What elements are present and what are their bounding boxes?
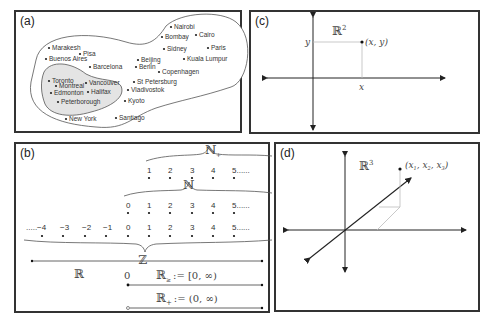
- svg-text:5......: 5......: [232, 166, 250, 175]
- n-row: 0 1 2 3 4 5......: [126, 201, 250, 214]
- svg-text:St Petersburg: St Petersburg: [137, 78, 177, 86]
- svg-text:3: 3: [190, 166, 195, 175]
- svg-text:Nairobi: Nairobi: [174, 23, 195, 30]
- svg-text:New York: New York: [69, 115, 97, 122]
- svg-text:3: 3: [190, 201, 195, 210]
- r-pos-label: ℝ+:= (0, ∞): [156, 291, 218, 307]
- svg-text:Kyoto: Kyoto: [128, 97, 145, 105]
- svg-text:Berlin: Berlin: [139, 63, 156, 70]
- panel-d-r3-space: (d) ℝ3 (x1, x2, x3): [274, 142, 480, 312]
- svg-text:Peterborough: Peterborough: [61, 98, 101, 106]
- y-tick-label: y: [304, 37, 311, 47]
- svg-text:Montreal: Montreal: [59, 82, 85, 89]
- svg-text:Vancouver: Vancouver: [89, 79, 120, 86]
- zero-label: 0: [124, 270, 130, 281]
- svg-text:Halifax: Halifax: [91, 88, 112, 95]
- panel-b-number-sets: (b) ℕ+ 1 2 3 4 5...... ℕ 0 1 2 3 4 5....…: [14, 142, 270, 313]
- r2-plane-diagram: ℝ2 (x, y) y x: [251, 12, 482, 136]
- svg-text:Sidney: Sidney: [167, 45, 188, 53]
- nplus-label: ℕ+: [205, 143, 221, 158]
- space-label-r2: ℝ2: [332, 24, 346, 38]
- svg-text:4: 4: [211, 223, 216, 232]
- svg-text:5......: 5......: [232, 223, 250, 232]
- point-xy: [360, 40, 363, 43]
- svg-text:Bombay: Bombay: [165, 33, 190, 41]
- svg-text:Buenos Aires: Buenos Aires: [49, 55, 88, 62]
- svg-text:Vladivostok: Vladivostok: [131, 86, 165, 93]
- number-sets-diagram: ℕ+ 1 2 3 4 5...... ℕ 0 1 2 3 4 5......: [16, 144, 272, 315]
- point-label: (x, y): [365, 37, 388, 47]
- svg-text:−3: −3: [60, 223, 70, 232]
- space-label-r3: ℝ3: [359, 159, 373, 173]
- svg-text:Santiago: Santiago: [119, 114, 145, 122]
- r-label: ℝ: [74, 267, 85, 281]
- x-tick-label: x: [359, 82, 364, 92]
- svg-text:Marakesh: Marakesh: [52, 44, 81, 51]
- svg-text:Paris: Paris: [211, 44, 227, 51]
- svg-text:1: 1: [147, 166, 152, 175]
- svg-text:.....−4: .....−4: [26, 223, 47, 232]
- svg-text:1: 1: [147, 223, 152, 232]
- n-label: ℕ: [183, 178, 194, 192]
- x2-axis: [310, 178, 411, 258]
- svg-text:4: 4: [211, 201, 216, 210]
- z-label: ℤ: [138, 253, 147, 267]
- n-brace: [124, 182, 272, 196]
- svg-text:0: 0: [126, 201, 131, 210]
- svg-text:−2: −2: [82, 223, 92, 232]
- svg-text:4: 4: [211, 166, 216, 175]
- svg-text:3: 3: [190, 223, 195, 232]
- svg-text:Kuala Lumpur: Kuala Lumpur: [187, 55, 228, 63]
- svg-text:Barcelona: Barcelona: [93, 63, 123, 70]
- panel-a-city-sets: (a) Nairobi Bombay Cairo Sidney Paris Ma…: [14, 10, 242, 133]
- svg-text:2: 2: [168, 223, 173, 232]
- nplus-row: 1 2 3 4 5......: [147, 166, 250, 179]
- panel-c-r2-plane: (c) ℝ2 (x, y) y x: [249, 10, 480, 134]
- z-brace: [24, 240, 272, 252]
- svg-text:5......: 5......: [232, 201, 250, 210]
- svg-text:−1: −1: [103, 223, 113, 232]
- point-x1x2x3: [398, 167, 401, 170]
- city-sets-diagram: Nairobi Bombay Cairo Sidney Paris Marake…: [16, 12, 244, 135]
- svg-text:Edmonton: Edmonton: [54, 89, 84, 96]
- svg-text:Copenhagen: Copenhagen: [162, 68, 200, 76]
- svg-text:2: 2: [168, 166, 173, 175]
- r-nonneg-label: ℝ≥:= [0, ∞): [156, 268, 217, 283]
- z-row: .....−4 −3 −2 −1 0 1 2 3 4 5......: [26, 223, 250, 237]
- r3-space-diagram: ℝ3 (x1, x2, x3): [276, 144, 482, 314]
- point-label-3d: (x1, x2, x3): [405, 160, 449, 171]
- svg-text:1: 1: [147, 201, 152, 210]
- svg-text:0: 0: [126, 223, 131, 232]
- svg-text:Cairo: Cairo: [199, 31, 215, 38]
- svg-text:2: 2: [168, 201, 173, 210]
